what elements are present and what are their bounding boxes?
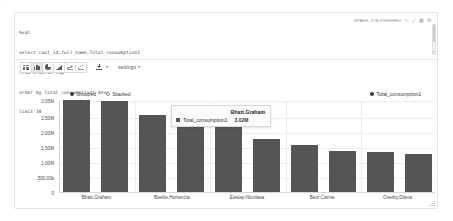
bar[interactable] xyxy=(253,139,280,192)
code-line: select cust_id,full_name,Total_consumpti… xyxy=(19,50,437,57)
download-button[interactable] xyxy=(93,62,105,73)
play-icon[interactable]: ▷ xyxy=(405,18,409,23)
bar[interactable] xyxy=(215,119,242,192)
editor-scrollbar[interactable]: ▾ xyxy=(432,24,436,55)
tooltip-color-swatch xyxy=(176,118,180,122)
line-chart-icon xyxy=(67,64,74,69)
radio-selected-icon xyxy=(70,92,74,96)
mode-grouped-label: Grouped xyxy=(77,91,96,97)
layout-icon[interactable]: ▦ xyxy=(419,18,424,23)
radio-unselected-icon xyxy=(106,92,110,96)
bar[interactable] xyxy=(101,101,128,192)
legend-label: Total_consumption1 xyxy=(377,91,421,97)
tooltip-series-label: Total_consumption1 xyxy=(183,117,227,123)
y-axis-tick-label: 2.00M xyxy=(41,130,54,135)
x-axis-tick-label: Beebe.Hortencia xyxy=(154,195,190,200)
bar[interactable] xyxy=(177,117,204,192)
y-axis-tick-label: 0 xyxy=(51,191,54,196)
mode-stacked[interactable]: Stacked xyxy=(106,91,131,97)
bar[interactable] xyxy=(139,115,166,192)
legend-color-dot xyxy=(370,92,374,96)
y-axis-labels: 3.05M2.50M2.00M1.50M1.00M500.00k0 xyxy=(15,101,57,193)
code-line: %sql xyxy=(19,30,437,37)
y-axis-tick-label: 1.00M xyxy=(41,160,54,165)
bar[interactable] xyxy=(329,151,356,192)
bar[interactable] xyxy=(63,100,90,192)
spark-job-status: SPARK JOB FINISHED xyxy=(354,18,402,23)
scroll-down-arrow[interactable]: ▾ xyxy=(433,50,435,54)
bar[interactable] xyxy=(291,145,318,192)
settings-label[interactable]: settings xyxy=(118,64,136,70)
x-axis-tick-label: Betz.Carnie xyxy=(310,195,335,200)
y-axis-tick-label: 2.50M xyxy=(41,115,54,120)
scatter-chart-button[interactable] xyxy=(75,62,87,73)
expand-icon[interactable]: ⤢ xyxy=(412,18,416,23)
bar[interactable] xyxy=(367,152,394,192)
gear-icon[interactable]: ⚙ xyxy=(427,18,431,23)
series-mode-group: Grouped Stacked xyxy=(70,91,131,97)
scatter-chart-icon xyxy=(78,64,85,69)
download-icon xyxy=(96,64,102,70)
bar[interactable] xyxy=(405,154,432,192)
bar-chart: Grouped Stacked Total_consumption1 3.05M… xyxy=(15,75,437,209)
settings-caret-icon[interactable]: ▾ xyxy=(138,65,140,69)
y-axis-tick-label: 500.00k xyxy=(38,175,54,180)
table-icon xyxy=(23,65,29,70)
stray-mark: · xyxy=(2,1,7,5)
mode-stacked-label: Stacked xyxy=(112,91,130,97)
chart-legend[interactable]: Total_consumption1 xyxy=(370,91,421,97)
x-axis-labels: Bhatt.GrahamBeebe.HortenciaEaslep.Nicola… xyxy=(59,195,435,205)
tooltip-title: Bhatt.Graham xyxy=(176,109,265,115)
y-axis-tick-label: 1.50M xyxy=(41,145,54,150)
chart-tooltip: Bhatt.Graham Total_consumption1 3.02M xyxy=(171,105,271,127)
download-caret-icon[interactable]: ▾ xyxy=(106,65,108,69)
tooltip-value: 3.02M xyxy=(234,117,248,123)
x-axis-tick-label: Easlep.Nicolasa xyxy=(230,195,264,200)
mode-grouped[interactable]: Grouped xyxy=(70,91,96,97)
y-axis-tick-label: 3.05M xyxy=(41,99,54,104)
resize-handle[interactable] xyxy=(429,200,435,206)
screenshot-root: · %sql select cust_id,full_name,Total_co… xyxy=(0,0,453,221)
pie-chart-icon xyxy=(45,64,50,69)
bar-chart-icon xyxy=(34,64,41,70)
sql-editor[interactable]: %sql select cust_id,full_name,Total_cons… xyxy=(15,13,437,58)
x-axis-tick-label: Overby.Diana xyxy=(383,195,412,200)
notebook-paragraph: %sql select cust_id,full_name,Total_cons… xyxy=(14,12,438,209)
paragraph-status-bar: SPARK JOB FINISHED ▷ ⤢ ▦ ⚙ xyxy=(351,18,431,23)
chart-toolbar: ▾ settings ▾ xyxy=(15,59,437,74)
area-chart-icon xyxy=(56,64,63,69)
scrollbar-thumb[interactable] xyxy=(433,25,435,42)
tooltip-row: Total_consumption1 3.02M xyxy=(176,117,265,123)
x-axis-tick-label: Bhatt.Graham xyxy=(82,195,112,200)
